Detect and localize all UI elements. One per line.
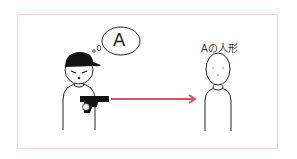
arrow	[111, 95, 195, 103]
scene	[0, 0, 297, 159]
shooter-figure	[63, 56, 95, 130]
thought-dots	[93, 46, 101, 53]
thought-letter: A	[113, 29, 125, 50]
target-label: Aの人形	[201, 40, 238, 55]
target-doll	[205, 53, 231, 131]
cap-icon	[65, 52, 101, 67]
